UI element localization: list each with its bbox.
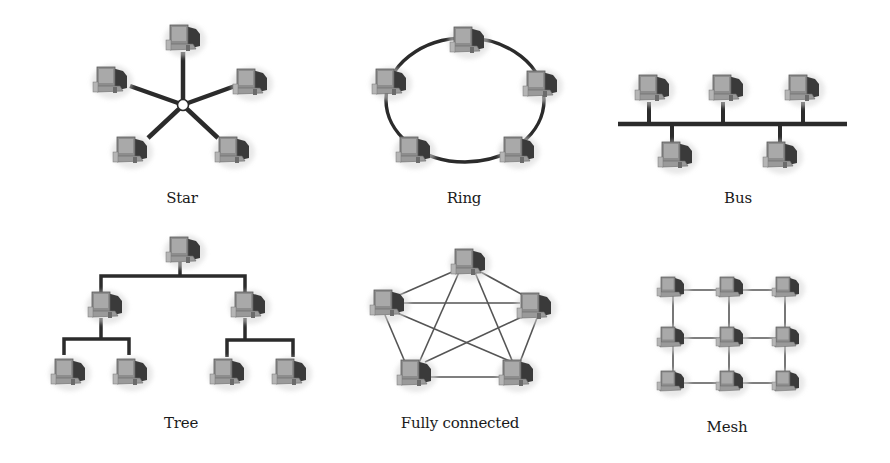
ring-label: Ring — [447, 189, 482, 207]
computer-icon — [91, 65, 133, 99]
computer-icon — [111, 135, 153, 169]
computer-icon — [633, 73, 675, 107]
network-topologies-diagram — [0, 0, 890, 463]
computer-icon — [656, 275, 690, 303]
computer-icon — [229, 290, 271, 324]
computer-icon — [515, 291, 557, 325]
computer-icon — [783, 73, 825, 107]
mesh-topology — [656, 275, 805, 397]
tree-nodes — [49, 235, 312, 391]
computer-icon — [715, 369, 749, 397]
computer-icon — [213, 135, 255, 169]
computer-icon — [368, 288, 410, 322]
computer-icon — [394, 135, 436, 169]
computer-icon — [208, 357, 250, 391]
computer-icon — [707, 73, 749, 107]
computer-icon — [498, 135, 540, 169]
ring-nodes — [370, 25, 563, 169]
computer-icon — [656, 325, 690, 353]
tree-label: Tree — [164, 414, 198, 432]
computer-icon — [370, 67, 412, 101]
computer-icon — [270, 357, 312, 391]
computer-icon — [715, 275, 749, 303]
computer-icon — [497, 358, 539, 392]
star-label: Star — [166, 189, 198, 207]
computer-icon — [771, 325, 805, 353]
star-links — [130, 52, 235, 138]
fully-connected-label: Fully connected — [401, 414, 519, 432]
star-topology — [91, 23, 273, 169]
computer-icon — [395, 358, 437, 392]
computer-icon — [111, 357, 153, 391]
computer-icon — [49, 357, 91, 391]
bus-topology — [618, 73, 847, 174]
computer-icon — [656, 140, 698, 174]
hub-icon — [178, 100, 189, 111]
computer-icon — [656, 369, 690, 397]
bus-links — [618, 102, 847, 142]
computer-icon — [715, 325, 749, 353]
computer-icon — [231, 67, 273, 101]
tree-topology — [49, 235, 312, 391]
computer-icon — [771, 275, 805, 303]
ring-topology — [370, 25, 563, 169]
computer-icon — [164, 23, 206, 57]
bus-label: Bus — [724, 189, 752, 207]
computer-icon — [449, 247, 491, 281]
mesh-label: Mesh — [707, 418, 748, 436]
computer-icon — [521, 69, 563, 103]
computer-icon — [86, 290, 128, 324]
mesh-nodes — [656, 275, 805, 397]
computer-icon — [771, 369, 805, 397]
computer-icon — [448, 25, 490, 59]
fully-connected-nodes — [368, 247, 557, 392]
computer-icon — [164, 235, 206, 269]
computer-icon — [761, 140, 803, 174]
fully-connected-topology — [368, 247, 557, 392]
